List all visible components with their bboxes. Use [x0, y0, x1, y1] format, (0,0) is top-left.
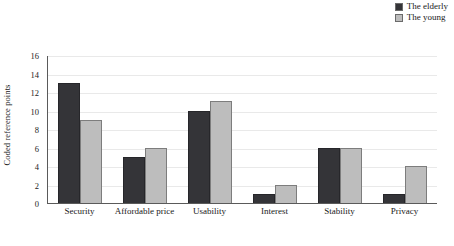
x-axis-tick-label: Security — [47, 206, 112, 216]
bar — [145, 148, 167, 204]
y-axis-tick-label: 16 — [31, 52, 40, 61]
bar-group — [242, 56, 307, 203]
y-axis-ticks: 1614121086420 — [0, 56, 44, 204]
x-axis-tick-label: Privacy — [372, 206, 437, 216]
x-axis-tick-label: Stability — [307, 206, 372, 216]
y-axis-tick-label: 12 — [31, 89, 40, 98]
y-axis-tick-label: 0 — [35, 200, 39, 209]
bar — [80, 120, 102, 203]
x-axis-tick-label: Usability — [177, 206, 242, 216]
legend-swatch-icon-elderly — [395, 3, 403, 11]
bar — [340, 148, 362, 204]
y-axis-tick-label: 2 — [35, 181, 39, 190]
bar — [318, 148, 340, 204]
y-axis-tick-label: 10 — [31, 107, 40, 116]
plot-area — [47, 56, 437, 204]
legend-swatch-icon-young — [395, 14, 403, 22]
bar-groups — [48, 56, 437, 203]
bar-group — [113, 56, 178, 203]
bar-chart: The elderly The young Coded reference po… — [0, 0, 454, 246]
bar — [123, 157, 145, 203]
legend-label-elderly: The elderly — [407, 2, 448, 11]
bar-group — [307, 56, 372, 203]
legend-item-the-young: The young — [395, 13, 446, 22]
x-axis-labels: SecurityAffordable priceUsabilityInteres… — [47, 206, 437, 216]
bar — [275, 185, 297, 204]
bar — [188, 111, 210, 204]
bar-group — [372, 56, 437, 203]
bar-group — [178, 56, 243, 203]
x-axis-tick-label: Interest — [242, 206, 307, 216]
y-axis-tick-label: 4 — [35, 163, 39, 172]
legend-label-young: The young — [407, 13, 446, 22]
bar — [210, 101, 232, 203]
y-axis-tick-label: 6 — [35, 144, 39, 153]
bar — [253, 194, 275, 203]
bar-group — [48, 56, 113, 203]
x-axis-tick-label: Affordable price — [112, 206, 177, 216]
bar — [58, 83, 80, 203]
bar — [405, 166, 427, 203]
y-axis-tick-label: 14 — [31, 70, 40, 79]
y-axis-tick-label: 8 — [35, 126, 39, 135]
bar — [383, 194, 405, 203]
chart-legend: The elderly The young — [395, 2, 448, 22]
legend-item-the-elderly: The elderly — [395, 2, 448, 11]
